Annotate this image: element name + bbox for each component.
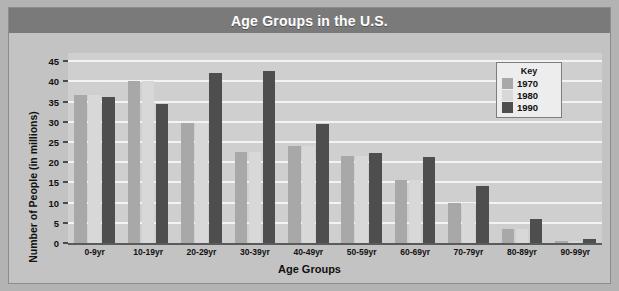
bar-1990-60-69yr bbox=[423, 157, 436, 243]
bar-1970-50-59yr bbox=[341, 156, 354, 243]
x-tick-label: 70-79yr bbox=[454, 247, 484, 257]
x-tick-label: 80-89yr bbox=[507, 247, 537, 257]
legend-entry: 1970 bbox=[502, 78, 556, 89]
bar-1980-60-69yr bbox=[409, 180, 422, 243]
y-tick-label: 0 bbox=[54, 238, 59, 249]
bar-1990-10-19yr bbox=[156, 104, 169, 243]
y-tick-label: 45 bbox=[48, 56, 59, 67]
bar-1980-30-39yr bbox=[249, 152, 262, 243]
x-axis-line bbox=[68, 243, 602, 245]
bar-1970-60-69yr bbox=[395, 180, 408, 243]
chart-title: Age Groups in the U.S. bbox=[231, 13, 388, 29]
x-tick-label: 90-99yr bbox=[560, 247, 590, 257]
bar-1970-30-39yr bbox=[235, 152, 248, 243]
bar-group bbox=[442, 53, 495, 243]
legend-label-1970: 1970 bbox=[517, 78, 538, 89]
y-tick-label: 30 bbox=[48, 116, 59, 127]
chart-screenshot: Age Groups in the U.S. Number of People … bbox=[0, 0, 619, 291]
bar-group bbox=[282, 53, 335, 243]
legend-label-1980: 1980 bbox=[517, 90, 538, 101]
chart-title-bar: Age Groups in the U.S. bbox=[9, 8, 610, 33]
x-tick-label: 0-9yr bbox=[85, 247, 105, 257]
y-tick-label: 15 bbox=[48, 177, 59, 188]
y-tick-label: 10 bbox=[48, 197, 59, 208]
x-axis-label: Age Groups bbox=[0, 263, 619, 275]
bar-1980-20-29yr bbox=[195, 123, 208, 243]
y-tick-label: 35 bbox=[48, 96, 59, 107]
x-tick-label: 50-59yr bbox=[347, 247, 377, 257]
bar-group bbox=[335, 53, 388, 243]
bar-1970-70-79yr bbox=[448, 203, 461, 243]
legend-swatch-1970 bbox=[502, 78, 513, 89]
y-tick-label: 5 bbox=[54, 217, 59, 228]
bar-group bbox=[121, 53, 174, 243]
bar-1990-20-29yr bbox=[209, 73, 222, 243]
bar-1970-10-19yr bbox=[128, 81, 141, 243]
y-tick-label: 20 bbox=[48, 157, 59, 168]
y-tick-label: 40 bbox=[48, 76, 59, 87]
bar-1980-0-9yr bbox=[88, 95, 101, 243]
bar-1970-0-9yr bbox=[74, 95, 87, 243]
bar-1990-80-89yr bbox=[530, 219, 543, 243]
legend-label-1990: 1990 bbox=[517, 102, 538, 113]
legend-swatch-1980 bbox=[502, 90, 513, 101]
legend: Key 197019801990 bbox=[496, 62, 562, 118]
bar-1980-50-59yr bbox=[355, 156, 368, 243]
legend-entries: 197019801990 bbox=[502, 78, 556, 113]
bar-1970-20-29yr bbox=[181, 123, 194, 243]
bar-1990-50-59yr bbox=[369, 153, 382, 243]
legend-swatch-1990 bbox=[502, 102, 513, 113]
x-tick-label: 40-49yr bbox=[293, 247, 323, 257]
bar-group bbox=[228, 53, 281, 243]
x-tick-label: 60-69yr bbox=[400, 247, 430, 257]
bar-1990-70-79yr bbox=[476, 186, 489, 243]
bar-group bbox=[175, 53, 228, 243]
x-tick-label: 10-19yr bbox=[133, 247, 163, 257]
bar-1990-0-9yr bbox=[102, 97, 115, 243]
bar-1980-10-19yr bbox=[142, 81, 155, 243]
legend-title: Key bbox=[502, 66, 556, 76]
legend-entry: 1980 bbox=[502, 90, 556, 101]
x-tick-label: 20-29yr bbox=[187, 247, 217, 257]
y-tick-label: 25 bbox=[48, 136, 59, 147]
bar-group bbox=[68, 53, 121, 243]
bar-1970-80-89yr bbox=[502, 229, 515, 243]
bar-1970-40-49yr bbox=[288, 146, 301, 243]
bar-1990-30-39yr bbox=[263, 71, 276, 243]
bar-1980-70-79yr bbox=[462, 203, 475, 243]
legend-entry: 1990 bbox=[502, 102, 556, 113]
bar-1990-40-49yr bbox=[316, 124, 329, 243]
y-axis: Number of People (in millions) 051015202… bbox=[0, 53, 68, 243]
y-axis-label: Number of People (in millions) bbox=[27, 92, 39, 282]
bar-group bbox=[388, 53, 441, 243]
x-tick-label: 30-39yr bbox=[240, 247, 270, 257]
bar-1980-80-89yr bbox=[516, 229, 529, 243]
bar-1980-40-49yr bbox=[302, 146, 315, 243]
